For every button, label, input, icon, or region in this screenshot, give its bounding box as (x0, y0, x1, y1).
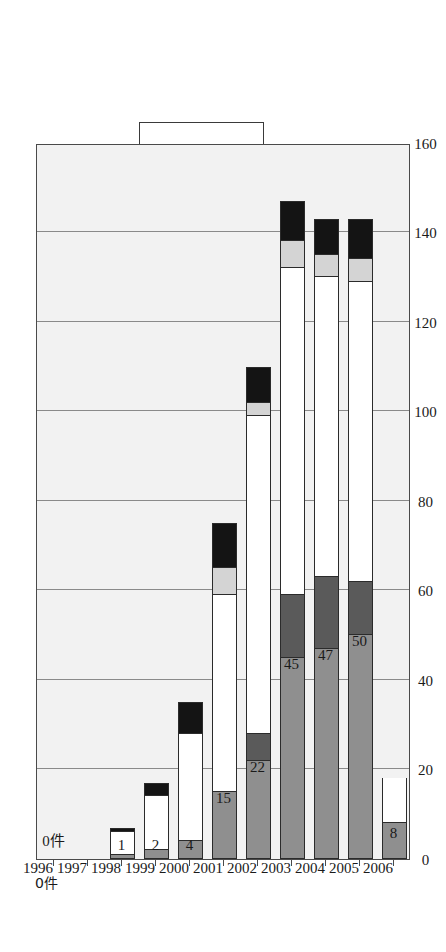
category-tick (155, 860, 156, 866)
bar-segment (280, 241, 305, 268)
value-tick-label: 60 (418, 584, 433, 599)
bar-value-label: 4 (186, 838, 194, 853)
category-tick-label: 1998 (91, 861, 121, 876)
bar-2001 (212, 523, 237, 859)
bar-segment (280, 658, 305, 859)
bar-2006 (382, 778, 407, 859)
category-tick (87, 860, 88, 866)
category-tick-label: 2000 (159, 861, 189, 876)
category-tick-label: 2004 (295, 861, 325, 876)
bar-2003 (280, 201, 305, 859)
bar-segment (314, 649, 339, 859)
bar-2002 (246, 367, 271, 859)
bar-segment (178, 702, 203, 733)
bar-segment (110, 828, 135, 832)
bar-segment (246, 761, 271, 859)
bar-value-label: 50 (352, 634, 367, 649)
bar-value-label: 47 (318, 648, 333, 663)
category-axis: 1996199719981999200020012002200320042005… (36, 860, 410, 922)
bar-segment (314, 277, 339, 577)
category-tick-label: 1999 (125, 861, 155, 876)
category-tick (393, 860, 394, 866)
bar-value-label: 45 (284, 657, 299, 672)
bar-value-label: 2 (152, 838, 160, 853)
stacked-bar-chart: その他保育園・乳児院保健・福祉歯科医療機関 0件12415224547508 0… (0, 0, 446, 952)
bar-value-label: 0件 (42, 834, 65, 849)
category-tick (325, 860, 326, 866)
bar-segment (348, 259, 373, 281)
bar-segment (212, 523, 237, 568)
category-tick-label: 2002 (227, 861, 257, 876)
bar-value-label: 8 (390, 826, 398, 841)
bar-2004 (314, 219, 339, 859)
value-tick-label: 40 (418, 674, 433, 689)
bar-segment (144, 783, 169, 796)
bar-segment (246, 734, 271, 761)
category-tick (359, 860, 360, 866)
plot-area: 0件12415224547508 (36, 144, 410, 860)
category-tick (291, 860, 292, 866)
category-tick-label: 2006 (363, 861, 393, 876)
bar-value-label: 15 (216, 791, 231, 806)
bar-value-label: 1 (118, 838, 126, 853)
bar-segment (110, 855, 135, 859)
category-tick (189, 860, 190, 866)
value-tick-label: 120 (414, 316, 437, 331)
value-tick-label: 160 (414, 137, 437, 152)
bar-segment (280, 268, 305, 595)
unit-label: 0件 (35, 876, 58, 890)
category-tick (257, 860, 258, 866)
category-tick (223, 860, 224, 866)
bar-segment (348, 582, 373, 636)
bar-segment (314, 255, 339, 277)
bar-segment (348, 282, 373, 582)
category-tick (121, 860, 122, 866)
bar-segment (348, 219, 373, 259)
value-tick-label: 100 (414, 405, 437, 420)
bar-segment (382, 778, 407, 823)
bar-segment (178, 734, 203, 841)
value-axis: 020406080100120140160 (410, 144, 446, 860)
category-tick-label: 2005 (329, 861, 359, 876)
category-tick (53, 860, 54, 866)
bar-segment (212, 568, 237, 595)
bar-segment (314, 577, 339, 649)
bar-2005 (348, 219, 373, 859)
bar-segment (246, 367, 271, 403)
value-tick-label: 20 (418, 763, 433, 778)
category-tick-label: 1997 (57, 861, 87, 876)
bar-segment (348, 635, 373, 859)
bar-segment (212, 595, 237, 792)
bar-value-label: 22 (250, 760, 265, 775)
bar-segment (246, 403, 271, 416)
category-tick-label: 2003 (261, 861, 291, 876)
bar-segment (280, 595, 305, 658)
category-tick-label: 1996 (23, 861, 53, 876)
value-tick-label: 80 (418, 495, 433, 510)
bar-2000 (178, 702, 203, 859)
bar-segment (280, 201, 305, 241)
bar-segment (314, 219, 339, 255)
rotated-figure-wrapper: その他保育園・乳児院保健・福祉歯科医療機関 0件12415224547508 0… (0, 0, 446, 952)
value-tick-label: 0 (422, 853, 430, 868)
value-tick-label: 140 (414, 226, 437, 241)
bar-segment (246, 416, 271, 734)
category-tick-label: 2001 (193, 861, 223, 876)
